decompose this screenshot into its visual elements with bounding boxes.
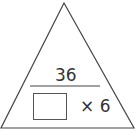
factor-text: × 6 — [80, 98, 110, 115]
top-value: 36 — [55, 67, 77, 84]
answer-box[interactable] — [34, 94, 67, 120]
